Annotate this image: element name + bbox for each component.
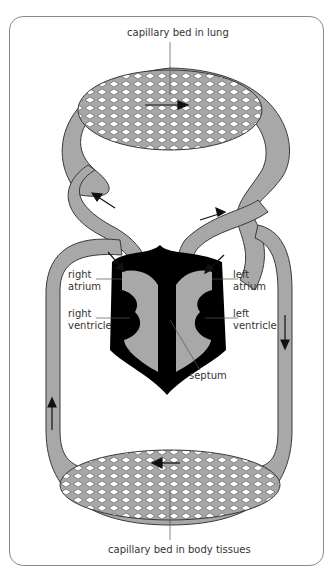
label-right-ventricle: right ventricle [68, 308, 112, 332]
label-lung-capillary: capillary bed in lung [127, 27, 229, 39]
label-right-atrium: right atrium [68, 269, 101, 293]
circulation-diagram [0, 0, 334, 576]
label-left-ventricle: left ventricle [233, 308, 277, 332]
label-septum: septum [189, 370, 227, 382]
label-body-capillary: capillary bed in body tissues [108, 544, 251, 556]
label-left-atrium: left atrium [233, 269, 266, 293]
